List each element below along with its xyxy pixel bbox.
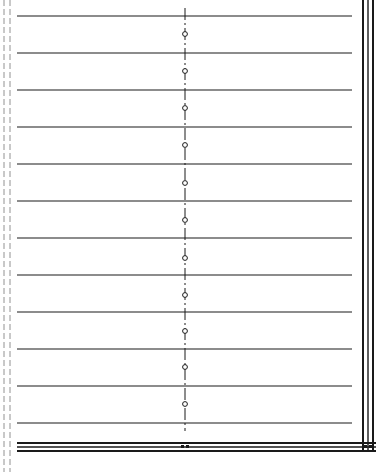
technical-drawing: [0, 0, 376, 472]
circle-icon: [183, 181, 188, 186]
circle-icon: [183, 402, 188, 407]
left-margin-lines: [4, 0, 10, 472]
circle-icon: [183, 256, 188, 261]
circle-icon: [183, 329, 188, 334]
joint-mark: [369, 445, 372, 448]
bottom-border-frame: [17, 443, 376, 451]
joint-mark: [364, 445, 367, 448]
circle-icon: [183, 365, 188, 370]
circle-icon: [183, 32, 188, 37]
circle-icon: [183, 293, 188, 298]
circle-icon: [183, 143, 188, 148]
joint-mark: [186, 445, 189, 448]
circle-icon: [183, 218, 188, 223]
circle-icon: [183, 106, 188, 111]
right-border-frame: [363, 0, 373, 452]
joint-mark: [181, 445, 184, 448]
circle-icon: [183, 69, 188, 74]
